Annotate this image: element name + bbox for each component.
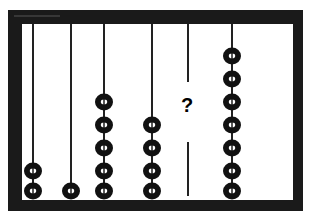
- bead: [143, 163, 161, 180]
- bead: [95, 163, 113, 180]
- bead: [95, 140, 113, 157]
- bead: [24, 163, 42, 180]
- bead: [95, 94, 113, 111]
- bead: [223, 140, 241, 157]
- bead: [223, 71, 241, 88]
- bead: [223, 117, 241, 134]
- bead: [143, 140, 161, 157]
- bead: [62, 183, 80, 200]
- bead: [24, 183, 42, 200]
- bead: [223, 48, 241, 65]
- abacus-diagram: ?: [0, 0, 310, 220]
- bead: [143, 117, 161, 134]
- bead: [223, 163, 241, 180]
- bead: [95, 183, 113, 200]
- bead: [95, 117, 113, 134]
- bead: [143, 183, 161, 200]
- bead: [223, 183, 241, 200]
- bead: [223, 94, 241, 111]
- unknown-value-mark: ?: [181, 94, 193, 116]
